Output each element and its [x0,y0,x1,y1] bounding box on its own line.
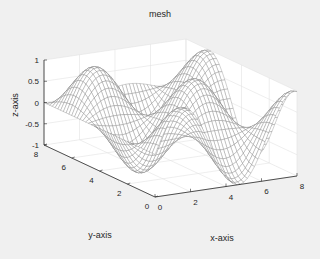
tick-label: 6 [62,163,67,172]
tick-label: 0 [145,202,150,211]
x-axis-label: x-axis [210,233,234,243]
tick-label: -0.5 [25,120,39,129]
tick-label: 8 [300,182,305,191]
tick-label: 1 [35,56,40,65]
tick-label: 8 [34,150,39,159]
figure-window: 0246802468-1-0.500.51 mesh x-axis y-axis… [0,0,320,259]
mesh-plot-axes[interactable]: 0246802468-1-0.500.51 mesh x-axis y-axis… [0,0,320,259]
tick-label: 2 [193,198,198,207]
chart-title: mesh [149,9,171,19]
tick-label: 0.5 [28,77,40,86]
tick-label: 4 [229,193,234,202]
tick-label: -1 [32,141,40,150]
tick-label: 0 [35,99,40,108]
z-axis-label: z-axis [10,93,20,117]
tick-label: 2 [117,189,122,198]
y-axis-label: y-axis [88,230,112,240]
tick-label: 0 [158,203,163,212]
tick-label: 6 [264,187,269,196]
tick-label: 4 [89,176,94,185]
